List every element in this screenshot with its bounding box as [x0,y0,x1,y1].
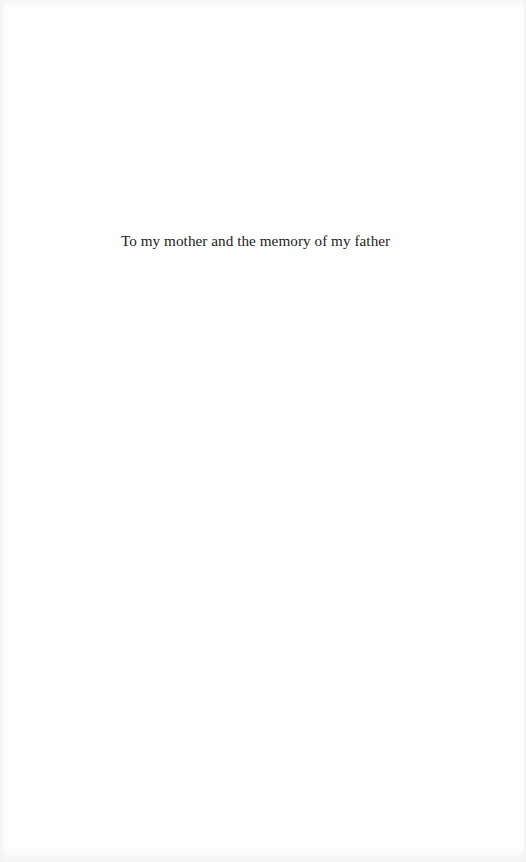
page-edge-top [0,0,526,8]
page-edge-left [0,0,6,862]
page-edge-right [522,0,526,862]
dedication-text: To my mother and the memory of my father [121,232,390,250]
document-page: To my mother and the memory of my father [0,0,526,862]
page-edge-bottom [0,848,526,862]
